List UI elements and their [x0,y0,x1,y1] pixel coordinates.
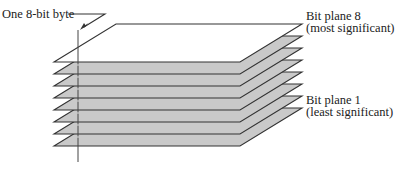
bit-plane-diagram: One 8-bit byte Bit plane 8 (most signifi… [0,0,403,170]
byte-label: One 8-bit byte [2,7,75,21]
top-plane-label-line2: (most significant) [306,21,395,35]
bottom-plane-label-line2: (least significant) [306,105,393,119]
bit-planes-stack [54,24,302,146]
